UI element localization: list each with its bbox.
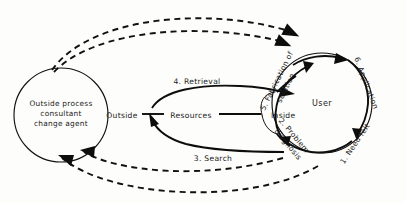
dashed-link-top-inner [54, 31, 293, 72]
retrieval-label: 4. Retrieval [173, 77, 220, 86]
dashed-link-top-outer [52, 18, 301, 70]
consultant-label-line2: consultant [40, 109, 81, 118]
resources-group: Resources [142, 111, 261, 120]
diagram-canvas: Outside process consultant change agent … [0, 0, 406, 203]
dashed-link-bottom-outer [58, 155, 318, 192]
arrowhead-search [149, 113, 159, 127]
resources-label: Resources [170, 111, 211, 120]
consultant-label-line3: change agent [34, 119, 88, 128]
arrowhead-top-inner [274, 34, 293, 48]
outside-label: Outside [106, 111, 137, 120]
arrowhead-step5 [303, 61, 314, 73]
arrowhead-top-cycle [334, 53, 349, 64]
cycle-arc-5-to-6 [293, 53, 349, 65]
consultant-label-line1: Outside process [29, 99, 92, 108]
arrowhead-top-outer [281, 23, 301, 38]
outside-boundary-group: Outside [106, 111, 137, 120]
cycle-step1-label: 1. Need felt [338, 122, 372, 166]
search-label: 3. Search [194, 154, 232, 163]
arrowhead-bottom-inner [80, 146, 95, 158]
consultant-circle-group: Outside process consultant change agent [14, 68, 108, 162]
dashed-link-bottom-inner [80, 146, 283, 171]
user-label: User [312, 99, 332, 108]
process-cycle-diagram: Outside process consultant change agent … [0, 0, 406, 203]
cycle-step6-label: 6. Application [352, 56, 380, 110]
